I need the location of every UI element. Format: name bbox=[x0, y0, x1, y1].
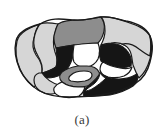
figure-panel: (a) bbox=[0, 0, 164, 140]
figure-caption: (a) bbox=[0, 112, 164, 128]
blob-diagram bbox=[0, 0, 164, 112]
